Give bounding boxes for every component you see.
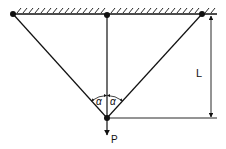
angle-label-left: α [96, 96, 102, 107]
angle-label-right: α [110, 96, 116, 107]
right-inclined-bar [107, 14, 202, 118]
left-inclined-bar [13, 14, 107, 118]
center-pin [104, 12, 110, 18]
load-label: P [111, 134, 118, 145]
ceiling-support [12, 8, 217, 14]
ceiling-hatching [17, 8, 215, 13]
length-label: L [196, 67, 202, 79]
right-pin [199, 11, 205, 17]
truss-diagram: α α P L [0, 0, 226, 149]
left-pin [10, 11, 16, 17]
